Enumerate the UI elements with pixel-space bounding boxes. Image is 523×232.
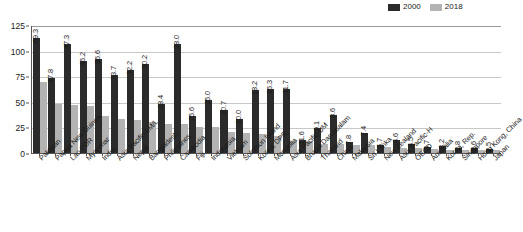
y-axis-tick-label: 100: [0, 47, 25, 57]
bar-group: 36.6: [95, 26, 111, 153]
bar-group: 47.8: [48, 26, 64, 153]
bar-value-label: 16.3: [265, 80, 274, 94]
bar-value-label: 18.2: [250, 81, 259, 95]
y-axis-tick-mark: [26, 128, 29, 129]
bar-group: 20.0: [235, 26, 251, 153]
bar-group: 25.0: [204, 26, 220, 153]
bar-value-label: 36.6: [93, 50, 102, 64]
legend-label-2018: 2018: [445, 3, 463, 11]
bar-value-label: 33.7: [109, 66, 118, 80]
y-axis-tick-mark: [26, 77, 29, 78]
bar-value-label: 7.4: [359, 126, 368, 136]
bar-value-label: 30.2: [140, 55, 149, 69]
y-axis-tick-mark: [26, 26, 29, 27]
legend-label-2000: 2000: [403, 3, 421, 11]
bar-value-label: 25.6: [187, 107, 196, 121]
y-axis-tick-label: 25: [0, 123, 25, 133]
bar-2000: [205, 100, 212, 153]
bar-value-label: 20.7: [219, 101, 228, 115]
bar-group: 20.7: [220, 26, 236, 153]
bar-value-label: 20.0: [234, 110, 243, 124]
bar-2000: [64, 44, 71, 153]
bar-group: 3.2: [439, 26, 455, 153]
bar-value-label: 8.6: [328, 108, 337, 118]
y-axis-tick-label: 75: [0, 72, 25, 82]
bar-group: 7.4: [360, 26, 376, 153]
x-axis: PakistanPapua New GuineaLao PDRMyanmarIn…: [31, 156, 501, 228]
bar-value-label: 25.0: [203, 91, 212, 105]
bar-2018: [40, 82, 47, 153]
bar-2000: [111, 75, 118, 153]
legend-entry-2000: 2000: [388, 3, 421, 11]
bar-value-label: 32.2: [125, 61, 134, 75]
bar-value-label: 46.2: [78, 52, 87, 66]
legend-swatch-2000: [388, 4, 400, 11]
bar-value-label: 28.4: [156, 95, 165, 109]
bar-group: 33.7: [110, 26, 126, 153]
y-axis-tick-mark: [26, 51, 29, 52]
legend-swatch-2018: [430, 4, 442, 11]
y-axis-tick-label: 0: [0, 149, 25, 159]
y-axis-tick-mark: [26, 102, 29, 103]
bar-2000: [33, 38, 40, 153]
y-axis: 0255075100125: [0, 20, 29, 160]
bar-value-label: 69.3: [31, 29, 40, 43]
y-axis-tick-label: 125: [0, 21, 25, 31]
bar-value-label: 47.3: [62, 35, 71, 49]
bar-value-label: 11.7: [281, 80, 290, 93]
bar-group: 5.7: [376, 26, 392, 153]
bar-group: 69.3: [32, 26, 48, 153]
chart-legend: 2000 2018: [388, 3, 463, 11]
legend-entry-2018: 2018: [430, 3, 463, 11]
y-axis-tick-mark: [26, 154, 29, 155]
bar-value-label: 47.8: [46, 69, 55, 83]
bar-value-label: 28.0: [172, 35, 181, 49]
y-axis-tick-label: 50: [0, 98, 25, 108]
